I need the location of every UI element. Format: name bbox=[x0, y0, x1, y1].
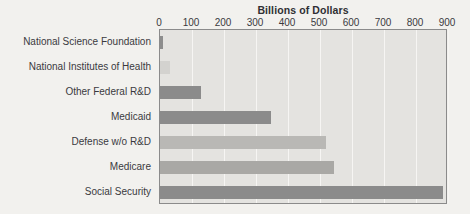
bar bbox=[160, 186, 443, 199]
y-label-defense-w-o-r-d: Defense w/o R&D bbox=[72, 129, 151, 154]
y-label-medicare: Medicare bbox=[110, 154, 151, 179]
y-label-other-federal-r-d: Other Federal R&D bbox=[65, 79, 151, 104]
gridline-900 bbox=[448, 30, 449, 203]
x-tick-label-800: 800 bbox=[407, 17, 424, 28]
x-tick-label-100: 100 bbox=[183, 17, 200, 28]
x-tick-label-200: 200 bbox=[215, 17, 232, 28]
bar bbox=[160, 136, 326, 149]
chart-title: Billions of Dollars bbox=[159, 4, 447, 16]
x-tick-label-700: 700 bbox=[375, 17, 392, 28]
bar-row bbox=[160, 30, 446, 55]
y-label-national-institutes-of-health: National Institutes of Health bbox=[29, 54, 151, 79]
bar bbox=[160, 111, 271, 124]
bar bbox=[160, 61, 170, 74]
bar-chart-figure: Billions of Dollars 01002003004005006007… bbox=[0, 0, 470, 214]
y-axis-category-labels: National Science FoundationNational Inst… bbox=[0, 29, 155, 204]
bar-row bbox=[160, 105, 446, 130]
bar-row bbox=[160, 55, 446, 80]
y-label-social-security: Social Security bbox=[85, 179, 151, 204]
bars-group bbox=[160, 30, 446, 203]
y-label-medicaid: Medicaid bbox=[111, 104, 151, 129]
bar bbox=[160, 161, 334, 174]
x-tick-label-900: 900 bbox=[439, 17, 456, 28]
y-label-national-science-foundation: National Science Foundation bbox=[23, 29, 151, 54]
x-tick-label-400: 400 bbox=[279, 17, 296, 28]
bar bbox=[160, 86, 201, 99]
bar-row bbox=[160, 130, 446, 155]
bar-row bbox=[160, 80, 446, 105]
x-tick-label-0: 0 bbox=[156, 17, 162, 28]
bar-row bbox=[160, 180, 446, 205]
bar-row bbox=[160, 155, 446, 180]
x-tick-label-300: 300 bbox=[247, 17, 264, 28]
x-tick-label-500: 500 bbox=[311, 17, 328, 28]
bar bbox=[160, 36, 163, 49]
x-tick-label-600: 600 bbox=[343, 17, 360, 28]
x-axis-tick-labels: 0100200300400500600700800900 bbox=[159, 17, 447, 29]
plot-area bbox=[159, 29, 447, 204]
